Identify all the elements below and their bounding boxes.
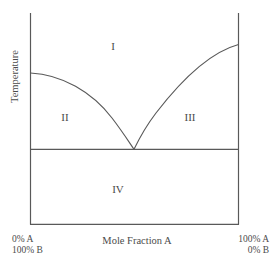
- phase-diagram-figure: I II III IV Temperature Mole Fraction A …: [0, 0, 275, 274]
- region-label-ii: II: [61, 111, 68, 124]
- right-composition-label: 100% A 0% B: [238, 234, 269, 256]
- x-axis-title: Mole Fraction A: [102, 235, 171, 247]
- figure-background: [0, 0, 275, 274]
- left-composition-line-2: 100% B: [12, 245, 43, 256]
- region-label-iv: IV: [112, 183, 124, 196]
- phase-diagram-plot: [0, 0, 275, 274]
- right-composition-line-1: 100% A: [238, 234, 269, 245]
- region-label-iii: III: [185, 111, 196, 124]
- left-composition-label: 0% A 100% B: [12, 234, 43, 256]
- y-axis-title-text: Temperature: [9, 89, 21, 103]
- y-axis-title: Temperature: [8, 90, 22, 160]
- left-composition-line-1: 0% A: [12, 234, 43, 245]
- right-composition-line-2: 0% B: [238, 245, 269, 256]
- region-label-i: I: [111, 40, 115, 53]
